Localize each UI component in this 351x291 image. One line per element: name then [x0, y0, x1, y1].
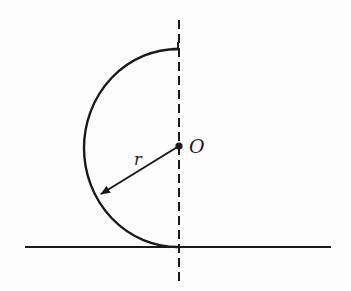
diagram-canvas: O r: [0, 0, 351, 291]
semicircle-arc: [84, 49, 178, 247]
semicircle-diagram: O r: [0, 0, 351, 291]
center-label: O: [189, 135, 205, 157]
radius-label: r: [134, 150, 143, 169]
center-point: [175, 142, 182, 149]
